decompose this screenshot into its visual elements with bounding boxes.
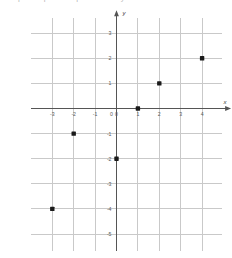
data-point <box>136 106 140 110</box>
grid-lines <box>31 18 222 251</box>
y-tick-label-1: 1 <box>109 80 112 86</box>
x-tick-label-4: 4 <box>201 111 204 117</box>
x-tick-label-neg2: -2 <box>71 111 76 117</box>
x-axis-arrow <box>225 106 231 111</box>
x-tick-label-neg1: -1 <box>93 111 98 117</box>
y-tick-label-0: 0 <box>110 111 113 117</box>
y-tick-label-neg4: -4 <box>107 206 112 212</box>
x-tick-label-neg3: -3 <box>50 111 55 117</box>
data-point <box>50 207 54 211</box>
data-point <box>72 131 76 135</box>
x-tick-label-0: 0 <box>115 111 118 117</box>
data-point <box>157 81 161 85</box>
y-tick-label-3: 3 <box>109 30 112 36</box>
y-axis-label: y <box>122 10 127 16</box>
y-tick-label-neg2: -2 <box>107 156 112 162</box>
x-axis-label: x <box>223 99 228 105</box>
chart-svg: -3-2-1012343210-1-2-3-4-5 xy <box>0 0 232 258</box>
x-tick-label-2: 2 <box>158 111 161 117</box>
x-tick-label-1: 1 <box>136 111 139 117</box>
axes <box>31 10 231 251</box>
x-tick-label-3: 3 <box>179 111 182 117</box>
y-axis-arrow <box>114 10 119 16</box>
coordinate-plane-chart: -3-2-1012343210-1-2-3-4-5 xy <box>0 0 232 258</box>
y-tick-label-neg3: -3 <box>107 181 112 187</box>
data-point <box>114 157 118 161</box>
data-point <box>200 56 204 60</box>
y-tick-label-2: 2 <box>109 55 112 61</box>
y-tick-label-neg1: -1 <box>107 131 112 137</box>
y-tick-label-neg5: -5 <box>107 231 112 237</box>
